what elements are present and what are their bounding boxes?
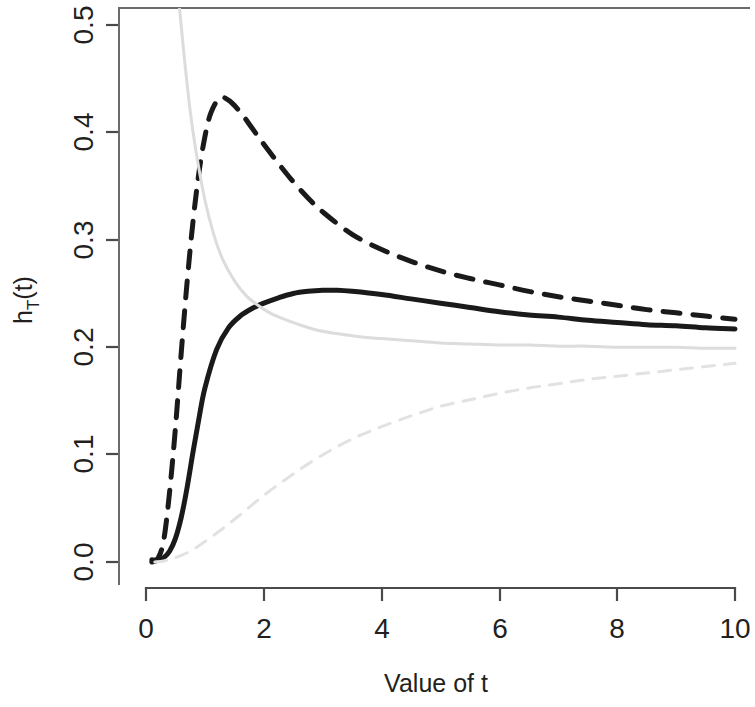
x-tick-label: 8 <box>609 613 625 644</box>
figure-container: 0.0 0.1 0.2 0.3 0.4 0.5 hT(t) 0 2 <box>0 0 755 707</box>
y-axis-title-suffix: (t) <box>9 276 37 300</box>
svg-text:hT(t): hT(t) <box>9 276 43 324</box>
y-tick-label: 0.1 <box>68 435 99 474</box>
x-tick-label: 10 <box>719 613 750 644</box>
y-axis-ticks <box>106 25 118 562</box>
y-tick-label: 0.5 <box>68 6 99 45</box>
y-axis-title-base: h <box>9 310 37 324</box>
x-tick-label: 6 <box>492 613 508 644</box>
x-tick-label: 0 <box>138 613 154 644</box>
plot-panel-background <box>118 7 750 585</box>
y-tick-label: 0.0 <box>68 543 99 582</box>
y-tick-label: 0.2 <box>68 328 99 367</box>
y-tick-label: 0.4 <box>68 113 99 152</box>
x-axis-tick-labels: 0 2 4 6 8 10 <box>138 613 750 644</box>
y-axis-title-subscript: T <box>24 300 43 310</box>
x-axis-ticks <box>146 588 735 601</box>
hazard-function-chart: 0.0 0.1 0.2 0.3 0.4 0.5 hT(t) 0 2 <box>0 0 755 707</box>
x-tick-label: 4 <box>374 613 390 644</box>
y-tick-label: 0.3 <box>68 221 99 260</box>
y-axis-title: hT(t) <box>9 276 43 324</box>
x-tick-label: 2 <box>256 613 272 644</box>
x-axis-title: Value of t <box>384 669 488 697</box>
y-axis-tick-labels: 0.0 0.1 0.2 0.3 0.4 0.5 <box>68 6 99 582</box>
